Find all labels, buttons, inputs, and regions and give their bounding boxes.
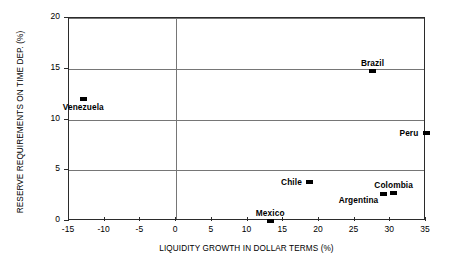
x-tick-label: 25: [341, 224, 367, 234]
data-point-marker: [380, 192, 387, 196]
x-tick-mark: [318, 217, 319, 221]
y-tick-label: 0: [40, 214, 60, 224]
x-tick-mark: [389, 217, 390, 221]
x-axis-title: LIQUIDITY GROWTH IN DOLLAR TERMS (%): [68, 244, 425, 253]
gridline-horizontal: [69, 170, 424, 171]
x-tick-label: 5: [198, 224, 224, 234]
y-tick-label: 15: [40, 62, 60, 72]
y-tick-label: 20: [40, 11, 60, 21]
data-point-marker: [306, 180, 313, 184]
data-point-label: Mexico: [256, 208, 285, 218]
x-tick-mark: [175, 217, 176, 221]
gridline-horizontal: [69, 18, 424, 19]
x-tick-label: 35: [412, 224, 438, 234]
data-point-label: Colombia: [374, 180, 413, 190]
y-tick-label: 5: [40, 163, 60, 173]
x-tick-mark: [354, 217, 355, 221]
data-point-marker: [390, 191, 397, 195]
data-point-marker: [369, 69, 376, 73]
data-point-label: Argentina: [339, 195, 379, 205]
x-tick-mark: [68, 217, 69, 221]
data-point-marker: [267, 219, 274, 223]
plot-area: VenezuelaBrazilPeruChileColombiaArgentin…: [68, 17, 425, 220]
x-tick-label: 30: [376, 224, 402, 234]
x-tick-label: 20: [305, 224, 331, 234]
x-tick-label: 15: [269, 224, 295, 234]
scatter-chart-figure: RESERVE REQUIREMENTS ON TIME DEP. (%) 05…: [0, 0, 452, 271]
data-point-label: Peru: [400, 128, 419, 138]
x-tick-mark: [425, 217, 426, 221]
x-tick-mark: [282, 217, 283, 221]
x-tick-mark: [104, 217, 105, 221]
y-axis-title: RESERVE REQUIREMENTS ON TIME DEP. (%): [14, 6, 28, 238]
x-tick-label: -5: [126, 224, 152, 234]
data-point-label: Venezuela: [63, 102, 104, 112]
x-tick-label: -10: [91, 224, 117, 234]
y-tick-label: 10: [40, 113, 60, 123]
data-point-label: Brazil: [361, 58, 384, 68]
data-point-marker: [80, 97, 87, 101]
gridline-vertical: [176, 18, 177, 219]
data-point-marker: [423, 131, 430, 135]
x-tick-mark: [139, 217, 140, 221]
x-tick-label: 0: [162, 224, 188, 234]
x-tick-label: -15: [55, 224, 81, 234]
x-tick-mark: [211, 217, 212, 221]
x-tick-mark: [247, 217, 248, 221]
gridline-horizontal: [69, 120, 424, 121]
data-point-label: Chile: [281, 177, 302, 187]
x-tick-label: 10: [234, 224, 260, 234]
